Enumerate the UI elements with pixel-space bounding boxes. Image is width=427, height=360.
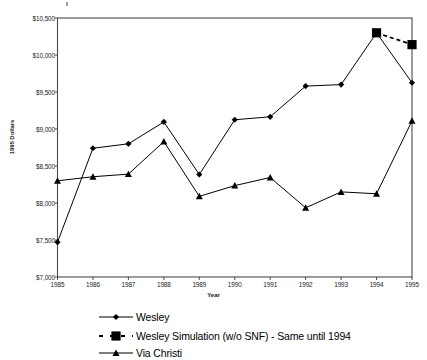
y-axis-title: 1995 Dollars (9, 105, 15, 169)
chart-legend: WesleyWesley Simulation (w/o SNF) - Same… (0, 307, 427, 360)
y-axis-tick-label: $8,000 (15, 200, 55, 207)
y-axis-tick-label: $10,500 (15, 15, 55, 22)
y-axis-tick-label: $10,000 (15, 52, 55, 59)
x-axis-tick-label: 1995 (392, 281, 427, 289)
x-axis-tick-label: 1987 (108, 281, 148, 289)
y-axis-tick-label: $7,500 (15, 237, 55, 244)
legend-square-icon (98, 329, 134, 343)
x-axis-tick-label: 1990 (215, 281, 255, 289)
x-axis-title: Year (0, 292, 427, 298)
legend-label: Wesley Simulation (w/o SNF) - Same until… (134, 330, 351, 343)
y-axis-tick-label: $9,500 (15, 89, 55, 96)
legend-diamond-icon (98, 310, 134, 324)
x-axis-tick-label: 1988 (144, 281, 184, 289)
y-axis-tick-label: $8,500 (15, 163, 55, 170)
x-axis-tick-label: 1986 (73, 281, 113, 289)
y-axis-tick-labels: $10,500$10,000$9,500$9,000$8,500$8,000$7… (8, 0, 55, 360)
legend-item: Via Christi (98, 345, 182, 360)
x-axis-tick-label: 1993 (321, 281, 361, 289)
legend-label: Via Christi (134, 347, 182, 360)
x-axis-tick-label: 1992 (286, 281, 326, 289)
x-axis-tick-label: 1991 (250, 281, 290, 289)
legend-triangle-icon (98, 346, 134, 360)
legend-item: Wesley (98, 309, 169, 325)
legend-label: Wesley (134, 311, 169, 324)
y-axis-tick-label: $9,000 (15, 126, 55, 133)
legend-item: Wesley Simulation (w/o SNF) - Same until… (98, 328, 351, 344)
x-axis-tick-label: 1994 (357, 281, 397, 289)
y-axis-tick-label: $7,000 (15, 274, 55, 281)
x-axis-tick-label: 1989 (179, 281, 219, 289)
x-axis-tick-label: 1985 (38, 281, 78, 289)
plot-area (0, 0, 427, 360)
line-chart: $10,500$10,000$9,500$9,000$8,500$8,000$7… (0, 0, 427, 360)
